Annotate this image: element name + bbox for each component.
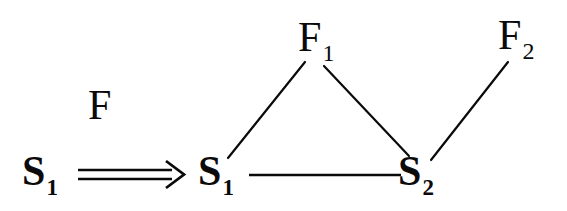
source-node-label-s1: S1 bbox=[22, 150, 57, 193]
graph-node-f2-base: F bbox=[498, 12, 522, 58]
graph-node-label-f1: F1 bbox=[298, 16, 334, 59]
graph-node-s2-subscript: 2 bbox=[423, 175, 435, 200]
map-label-text: F bbox=[88, 82, 112, 128]
graph-node-f1-subscript: 1 bbox=[323, 40, 335, 66]
edge-s2-f2 bbox=[431, 62, 508, 160]
source-node-subscript: 1 bbox=[47, 175, 59, 200]
graph-node-label-s1: S1 bbox=[198, 150, 233, 193]
graph-node-f2-subscript: 2 bbox=[523, 38, 535, 64]
double-right-arrow-icon bbox=[78, 161, 184, 188]
edge-s1-f1 bbox=[228, 62, 305, 158]
diagram-edge-layer bbox=[0, 0, 567, 211]
arrow-head bbox=[166, 161, 184, 188]
graph-node-s1-base: S bbox=[198, 148, 222, 194]
graph-node-f1-base: F bbox=[298, 14, 322, 60]
graph-node-label-s2: S2 bbox=[398, 150, 433, 193]
source-node-base: S bbox=[22, 148, 46, 194]
graph-node-label-f2: F2 bbox=[498, 14, 534, 57]
graph-transformation-figure: S1 F S1 S2 F1 F2 bbox=[0, 0, 567, 211]
graph-node-s1-subscript: 1 bbox=[223, 175, 235, 200]
edge-f1-s2 bbox=[324, 66, 409, 156]
graph-node-s2-base: S bbox=[398, 148, 422, 194]
map-label-f: F bbox=[88, 84, 112, 126]
